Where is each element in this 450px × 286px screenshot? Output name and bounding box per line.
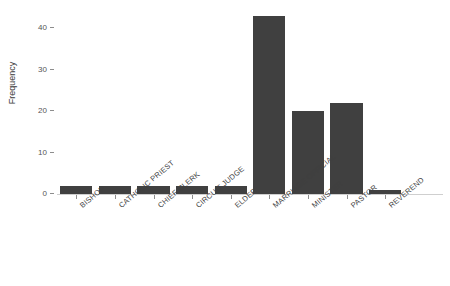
x-tick-mark — [231, 195, 232, 199]
bar — [60, 186, 92, 194]
y-tick-label: 30 — [38, 65, 47, 75]
x-tick-mark — [154, 195, 155, 199]
y-tick: 40 — [0, 23, 57, 33]
x-tick-mark — [115, 195, 116, 199]
bar-chart: Frequency 010203040 BISHOPCATHOLIC PRIES… — [0, 0, 450, 286]
y-tick-label: 20 — [38, 106, 47, 116]
x-tick-mark — [76, 195, 77, 199]
bars-layer — [57, 8, 443, 194]
y-tick: 20 — [0, 106, 57, 116]
y-tick-mark — [50, 69, 54, 70]
y-tick: 30 — [0, 65, 57, 75]
x-tick-mark — [269, 195, 270, 199]
y-tick-label: 0 — [43, 189, 47, 199]
x-tick-mark — [192, 195, 193, 199]
y-tick-mark — [50, 27, 54, 28]
y-tick-label: 10 — [38, 148, 47, 158]
y-tick: 0 — [0, 189, 57, 199]
x-tick-mark — [347, 195, 348, 199]
x-tick-mark — [308, 195, 309, 199]
y-tick-mark — [50, 193, 54, 194]
bar — [253, 16, 285, 194]
y-tick: 10 — [0, 148, 57, 158]
y-tick-label: 40 — [38, 23, 47, 33]
x-tick-mark — [385, 195, 386, 199]
y-tick-mark — [50, 152, 54, 153]
y-tick-mark — [50, 110, 54, 111]
